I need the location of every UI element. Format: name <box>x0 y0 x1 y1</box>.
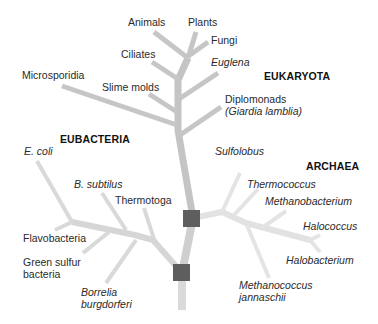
branch-methanobacterium <box>262 211 286 228</box>
label-plants: Plants <box>188 16 217 28</box>
label-methanobacterium: Methanobacterium <box>265 195 352 207</box>
branch-diplomonads <box>180 107 221 135</box>
domain-archaea: ARCHAEA <box>306 160 359 172</box>
label-e-coli: E. coli <box>24 145 53 157</box>
eukaryota-trunk <box>178 58 193 218</box>
label-thermotoga: Thermotoga <box>115 194 172 206</box>
label-flavobacteria: Flavobacteria <box>23 232 86 244</box>
branch-animals <box>154 32 188 58</box>
domain-eubacteria: EUBACTERIA <box>60 133 130 145</box>
label-methanococcus-line2: jannaschii <box>239 291 286 303</box>
branch-thermococcus <box>234 189 258 215</box>
branch-halobacterium <box>310 240 320 252</box>
label-fungi: Fungi <box>211 34 237 46</box>
label-green-sulfur-line1: Green sulfur <box>23 256 81 268</box>
branch-e-coli <box>37 161 72 222</box>
branch-thermotoga <box>144 208 154 239</box>
label-b-subtilus: B. subtilus <box>74 178 122 190</box>
label-diplomonads: Diplomonads <box>225 93 286 105</box>
label-thermococcus: Thermococcus <box>247 178 316 190</box>
label-borrelia-line1: Borrelia <box>81 286 117 298</box>
branch-sulfolobus <box>222 173 240 212</box>
label-slime-molds: Slime molds <box>102 81 159 93</box>
label-giardia: (Giardia lamblia) <box>225 105 302 117</box>
label-ciliates: Ciliates <box>121 48 155 60</box>
label-halococcus: Halococcus <box>303 220 357 232</box>
branch-ciliates <box>152 62 178 79</box>
branch-borrelia <box>106 240 136 283</box>
branch-green-sulfur <box>83 232 109 253</box>
branch-flavobacteria <box>55 222 72 230</box>
branch-euglena <box>179 73 218 99</box>
label-borrelia-line2: burgdorferi <box>81 298 132 310</box>
label-microsporidia: Microsporidia <box>22 69 84 81</box>
node-square-upper <box>183 210 200 227</box>
domain-eukaryota: EUKARYOTA <box>264 70 330 82</box>
label-sulfolobus: Sulfolobus <box>215 145 264 157</box>
node-square-lower <box>173 264 190 281</box>
label-halobacterium: Halobacterium <box>286 254 354 266</box>
label-animals: Animals <box>128 16 165 28</box>
label-methanococcus-line1: Methanococcus <box>239 279 313 291</box>
branch-slime-molds <box>149 94 177 112</box>
label-euglena: Euglena <box>211 56 250 68</box>
label-green-sulfur-line2: bacteria <box>23 268 60 280</box>
